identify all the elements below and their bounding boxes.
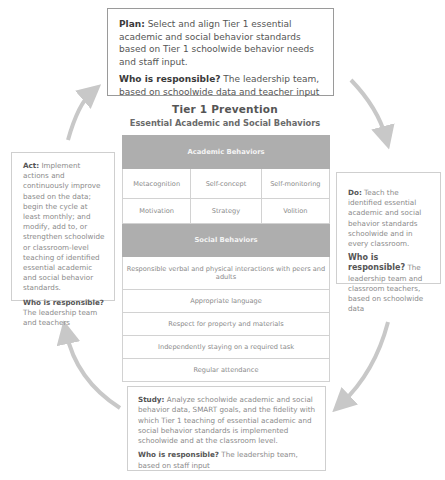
tier-subtitle: Essential Academic and Social Behaviors: [115, 118, 335, 128]
social-row: Regular attendance: [123, 359, 330, 382]
academic-row: Metacognition Self-concept Self-monitori…: [123, 169, 330, 199]
behaviors-table: Academic Behaviors Metacognition Self-co…: [122, 135, 330, 382]
plan-responsible: Who is responsible? The leadership team,…: [119, 73, 322, 98]
plan-label: Plan:: [119, 19, 145, 29]
act-description: Act: Implement actions and continuously …: [23, 161, 106, 294]
social-cell: Regular attendance: [123, 359, 330, 382]
act-responsible-label: Who is responsible?: [23, 298, 104, 307]
act-label: Act:: [23, 161, 39, 170]
social-cell: Appropriate language: [123, 290, 330, 313]
academic-cell: Volition: [261, 199, 329, 224]
academic-cell: Metacognition: [123, 169, 191, 199]
academic-row: Motivation Strategy Volition: [123, 199, 330, 224]
plan-text: Select and align Tier 1 essential academ…: [119, 19, 314, 67]
act-responsible-text: The leadership team and teachers: [23, 308, 97, 327]
do-responsible: Who is responsible? The leadership team …: [348, 253, 434, 314]
study-responsible-label: Who is responsible?: [138, 450, 219, 459]
social-row: Appropriate language: [123, 290, 330, 313]
study-text: Analyze schoolwide academic and social b…: [138, 395, 315, 445]
plan-box: Plan: Select and align Tier 1 essential …: [107, 8, 334, 96]
do-box: Do: Teach the identified essential acade…: [336, 172, 441, 284]
arrow-plan-to-do: [351, 80, 386, 138]
plan-description: Plan: Select and align Tier 1 essential …: [119, 18, 322, 68]
academic-cell: Motivation: [123, 199, 191, 224]
academic-cell: Strategy: [191, 199, 261, 224]
tier-title: Tier 1 Prevention: [115, 103, 335, 115]
arrow-study-to-act: [66, 332, 120, 408]
arrow-act-to-plan: [68, 92, 92, 140]
academic-cell: Self-monitoring: [261, 169, 329, 199]
do-label: Do:: [348, 188, 362, 197]
social-row: Independently staying on a required task: [123, 336, 330, 359]
academic-cell: Self-concept: [191, 169, 261, 199]
arrow-do-to-study: [341, 322, 388, 404]
act-box: Act: Implement actions and continuously …: [11, 152, 115, 301]
study-box: Study: Analyze schoolwide academic and s…: [127, 386, 326, 471]
study-label: Study:: [138, 395, 164, 404]
academic-behaviors-header: Academic Behaviors: [123, 136, 330, 169]
study-description: Study: Analyze schoolwide academic and s…: [138, 395, 317, 446]
social-cell: Responsible verbal and physical interact…: [123, 257, 330, 290]
do-responsible-label: Who is responsible?: [348, 253, 405, 272]
study-responsible: Who is responsible? The leadership team,…: [138, 450, 317, 471]
do-text: Teach the identified essential academic …: [348, 188, 421, 248]
act-responsible: Who is responsible? The leadership team …: [23, 298, 106, 329]
social-row: Respect for property and materials: [123, 313, 330, 336]
social-cell: Independently staying on a required task: [123, 336, 330, 359]
act-text: Implement actions and continuously impro…: [23, 161, 104, 292]
plan-responsible-label: Who is responsible?: [119, 74, 220, 84]
social-behaviors-header: Social Behaviors: [123, 224, 330, 257]
social-cell: Respect for property and materials: [123, 313, 330, 336]
social-row: Responsible verbal and physical interact…: [123, 257, 330, 290]
do-description: Do: Teach the identified essential acade…: [348, 188, 434, 249]
